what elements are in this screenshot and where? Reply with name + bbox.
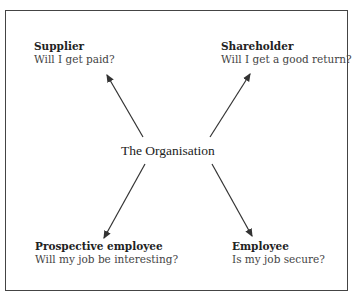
stakeholder-name: Prospective employee	[35, 240, 178, 253]
stakeholder-question: Will my job be interesting?	[35, 253, 178, 266]
arrow-to-supplier	[107, 75, 143, 137]
stakeholder-question: Will I get a good return?	[221, 53, 352, 66]
stakeholder-employee: Employee Is my job secure?	[232, 240, 325, 266]
arrow-to-shareholder	[210, 74, 250, 137]
stakeholder-shareholder: Shareholder Will I get a good return?	[221, 40, 352, 66]
arrow-to-prospective-employee	[104, 164, 145, 238]
stakeholder-prospective-employee: Prospective employee Will my job be inte…	[35, 240, 178, 266]
stakeholder-question: Is my job secure?	[232, 253, 325, 266]
stakeholder-question: Will I get paid?	[34, 53, 115, 66]
stakeholder-name: Shareholder	[221, 40, 352, 53]
stakeholder-name: Employee	[232, 240, 325, 253]
stakeholder-name: Supplier	[34, 40, 115, 53]
arrow-to-employee	[212, 164, 252, 236]
stakeholder-supplier: Supplier Will I get paid?	[34, 40, 115, 66]
center-node: The Organisation	[121, 143, 215, 159]
